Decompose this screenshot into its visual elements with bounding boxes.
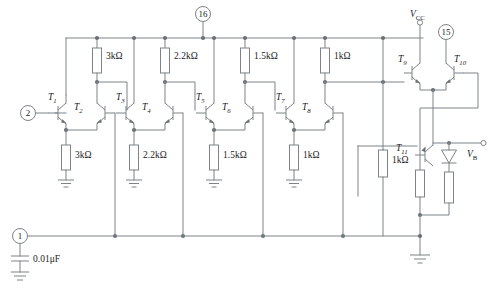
vb-label: VB bbox=[467, 149, 478, 161]
bottom-rail bbox=[28, 234, 423, 238]
resistor-tail-bias-label: 1kΩ bbox=[392, 155, 409, 165]
ground-symbol-output bbox=[410, 255, 430, 263]
ground-symbol-input bbox=[11, 272, 29, 280]
resistor-emitter-2-label: 2.2kΩ bbox=[143, 150, 167, 160]
resistor-emitter-1-label: 3kΩ bbox=[75, 150, 92, 160]
resistor-emitter-2-body bbox=[130, 145, 139, 170]
resistor-T11-emitter-body bbox=[416, 170, 425, 197]
pin-16-label: 16 bbox=[199, 9, 209, 19]
circuit-diagram-canvas: 16 3kΩ T1 bbox=[0, 0, 496, 296]
transistor-T8-label: T8 bbox=[302, 102, 311, 114]
transistor-T1-label: T1 bbox=[48, 92, 57, 104]
resistor-collector-3-body bbox=[241, 48, 250, 73]
pin-15-label: 15 bbox=[442, 27, 452, 37]
stage-4: 1kΩ T7 T8 1kΩ bbox=[276, 36, 404, 238]
resistor-collector-1-label: 3kΩ bbox=[106, 51, 123, 61]
ground-symbol-emitter-3 bbox=[206, 180, 222, 187]
transistor-T11-label: T11 bbox=[396, 143, 408, 155]
ground-symbol-emitter-4 bbox=[286, 180, 302, 187]
pin-2-label: 2 bbox=[26, 108, 31, 118]
transistor-T9-label: T9 bbox=[398, 54, 407, 66]
transistor-T3-label: T3 bbox=[116, 92, 125, 104]
capacitor-input bbox=[11, 256, 29, 261]
tail-bias-resistor-group: 1kΩ bbox=[379, 36, 409, 236]
resistor-collector-2-label: 2.2kΩ bbox=[174, 51, 198, 61]
resistor-collector-3-label: 1.5kΩ bbox=[254, 51, 278, 61]
resistor-tail-bias-body bbox=[379, 150, 388, 177]
resistor-emitter-1-body bbox=[62, 145, 71, 170]
ground-symbol-emitter-1 bbox=[58, 180, 74, 187]
resistor-collector-4-body bbox=[321, 48, 330, 73]
pin-1-label: 1 bbox=[18, 231, 23, 241]
vb-terminal[interactable] bbox=[481, 140, 486, 145]
stage-2: 2.2kΩ T3 T4 2.2kΩ bbox=[116, 36, 198, 238]
stage-1: 3kΩ T1 T2 bbox=[48, 36, 127, 238]
resistor-emitter-3-label: 1.5kΩ bbox=[223, 150, 247, 160]
transistor-T2-label: T2 bbox=[74, 102, 83, 114]
vcc-terminal[interactable] bbox=[417, 20, 422, 25]
vcc-label: VCC bbox=[410, 9, 425, 21]
diode-output-clamp bbox=[442, 150, 457, 163]
resistor-collector-4-label: 1kΩ bbox=[334, 51, 351, 61]
schematic-svg: 16 3kΩ T1 bbox=[0, 0, 496, 296]
output-differential-pair: VCC 15 T9 T10 bbox=[398, 9, 478, 145]
capacitor-input-label: 0.01μF bbox=[33, 254, 60, 264]
resistor-emitter-4-body bbox=[290, 145, 299, 170]
transistor-T7-label: T7 bbox=[276, 92, 285, 104]
output-stage-T11: T11 VB bbox=[358, 140, 486, 263]
ground-symbol-emitter-2 bbox=[126, 180, 142, 187]
pin-16-node[interactable]: 16 bbox=[196, 7, 211, 41]
transistor-T4-label: T4 bbox=[142, 102, 151, 114]
input-pin-2-group[interactable]: 2 bbox=[21, 106, 49, 121]
resistor-emitter-4-label: 1kΩ bbox=[303, 150, 320, 160]
resistor-emitter-3-body bbox=[210, 145, 219, 170]
resistor-diode-leg-body bbox=[445, 172, 454, 203]
transistor-T5-label: T5 bbox=[196, 92, 205, 104]
stage-3: 1.5kΩ T5 T6 1.5kΩ bbox=[196, 36, 278, 238]
resistor-collector-2-body bbox=[161, 48, 170, 73]
resistor-collector-1-body bbox=[93, 48, 102, 73]
transistor-T10-label: T10 bbox=[454, 54, 467, 66]
transistor-T6-label: T6 bbox=[222, 102, 231, 114]
